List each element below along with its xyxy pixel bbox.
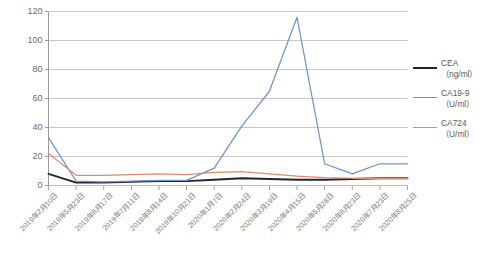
y-axis-label-100: 100	[13, 36, 43, 45]
y-axis-label-60: 60	[13, 94, 43, 103]
gridlines	[49, 12, 408, 186]
y-axis-label-40: 40	[13, 123, 43, 132]
line-chart: 020406080100120 2019年2月10日2019年5月23日2019…	[0, 0, 485, 266]
legend-unit-CEA: （ng/ml）	[441, 69, 477, 80]
series-line-CA19-9	[49, 17, 408, 182]
series-line-CA724	[49, 154, 408, 179]
legend-item-CA19-9[interactable]: CA19-9（U/ml）	[413, 88, 485, 118]
x-tick-marks	[49, 186, 408, 191]
legend-unit-CA19-9: （U/ml）	[441, 99, 474, 110]
y-axis-label-80: 80	[13, 65, 43, 74]
series-lines	[49, 17, 408, 182]
chart-legend: CEA（ng/ml）CA19-9（U/ml）CA724（U/ml）	[413, 58, 485, 148]
y-axis-label-120: 120	[13, 7, 43, 16]
legend-unit-CA724: （U/ml）	[441, 129, 474, 140]
legend-swatch-CA19-9	[413, 97, 437, 98]
legend-label-CA19-9: CA19-9	[441, 88, 469, 99]
legend-label-CA724: CA724	[441, 118, 467, 129]
legend-swatch-CEA	[413, 67, 437, 69]
axis-lines	[45, 12, 49, 186]
legend-label-CEA: CEA	[441, 58, 458, 69]
legend-item-CEA[interactable]: CEA（ng/ml）	[413, 58, 485, 88]
legend-item-CA724[interactable]: CA724（U/ml）	[413, 118, 485, 148]
y-axis-label-20: 20	[13, 152, 43, 161]
legend-swatch-CA724	[413, 127, 437, 128]
y-axis-label-0: 0	[13, 181, 43, 190]
